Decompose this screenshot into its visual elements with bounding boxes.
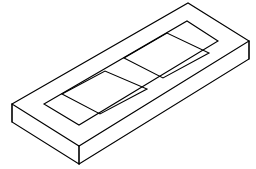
drawing-canvas [0, 0, 256, 169]
isometric-slab-svg [0, 0, 256, 169]
